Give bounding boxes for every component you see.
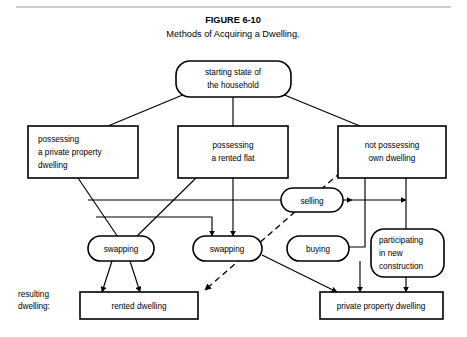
- node-starting-state-line2: the household: [207, 81, 259, 90]
- node-starting-state[interactable]: starting state of the household: [176, 61, 291, 97]
- node-private-property-dwelling[interactable]: private property dwelling: [320, 292, 443, 319]
- node-swapping-right[interactable]: swapping: [193, 236, 262, 261]
- node-starting-state-line1: starting state of: [205, 68, 262, 77]
- figure-root: FIGURE 6-10 Methods of Acquiring a Dwell…: [0, 0, 467, 337]
- node-possessing-private-property-line1: possessing: [38, 135, 79, 144]
- edge-swapping-left-to-rented-b: [130, 261, 140, 292]
- resulting-dwelling-label-line2: dwelling:: [18, 302, 50, 311]
- edge-rentedflat-to-swapping-left: [133, 178, 196, 240]
- node-swapping-right-label: swapping: [210, 245, 245, 254]
- edge-layer: [78, 94, 406, 292]
- node-possessing-rented-flat-line2: a rented flat: [211, 154, 255, 163]
- edge-swapping-left-to-rented-a: [102, 261, 112, 292]
- node-rented-dwelling-label: rented dwelling: [111, 302, 167, 311]
- node-participating-line3: construction: [379, 262, 424, 271]
- edge-start-to-not-possessing: [282, 94, 360, 126]
- node-possessing-private-property-line2: a private property: [38, 148, 103, 157]
- resulting-dwelling-label-line1: resulting: [18, 290, 49, 299]
- node-selling[interactable]: selling: [281, 188, 343, 212]
- node-buying-label: buying: [306, 245, 331, 254]
- edge-notpossessing-to-buying: [343, 178, 365, 247]
- node-possessing-rented-flat-shape: [178, 126, 288, 178]
- node-swapping-left[interactable]: swapping: [88, 236, 154, 261]
- node-swapping-left-label: swapping: [104, 245, 139, 254]
- node-participating-line2: in new: [379, 249, 403, 258]
- node-not-possessing-own-dwelling[interactable]: not possessing own dwelling: [338, 126, 446, 178]
- edge-notpossessing-to-rented-dwelling-dashed: [205, 166, 348, 290]
- node-possessing-rented-flat-line1: possessing: [213, 141, 254, 150]
- node-not-possessing-own-dwelling-line2: own dwelling: [369, 154, 416, 163]
- node-not-possessing-own-dwelling-line1: not possessing: [365, 141, 420, 150]
- node-participating-new-construction[interactable]: participating in new construction: [371, 229, 444, 277]
- node-selling-label: selling: [300, 197, 324, 206]
- node-rented-dwelling[interactable]: rented dwelling: [80, 292, 198, 319]
- flow-diagram: FIGURE 6-10 Methods of Acquiring a Dwell…: [0, 0, 467, 337]
- figure-title: FIGURE 6-10: [205, 15, 261, 25]
- node-participating-line1: participating: [379, 236, 424, 245]
- figure-subtitle: Methods of Acquiring a Dwelling.: [166, 29, 299, 39]
- node-possessing-private-property[interactable]: possessing a private property dwelling: [28, 126, 138, 178]
- node-private-property-dwelling-label: private property dwelling: [337, 302, 426, 311]
- edge-start-to-private: [108, 94, 185, 126]
- node-possessing-rented-flat[interactable]: possessing a rented flat: [178, 126, 288, 178]
- node-not-possessing-own-dwelling-shape: [338, 126, 446, 178]
- node-possessing-private-property-line3: dwelling: [38, 161, 68, 170]
- edge-private-to-swapping-left: [78, 178, 120, 240]
- node-buying[interactable]: buying: [287, 236, 349, 261]
- node-starting-state-shape: [176, 61, 291, 97]
